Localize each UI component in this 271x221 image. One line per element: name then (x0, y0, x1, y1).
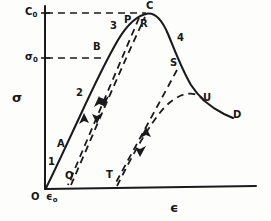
axis-group (41, 6, 256, 189)
y-tick-label-c0: C0 (25, 7, 38, 17)
point-U: U (203, 93, 211, 103)
segment-2: 2 (76, 88, 83, 98)
stress-strain-figure: σ ϵ O C0 σ0 ϵo C P R 3 B 4 S U D 2 A 1 Q… (0, 0, 271, 221)
point-S: S (170, 58, 177, 68)
y-tick-label-sigma0: σ0 (25, 52, 38, 62)
x-axis-line (45, 186, 256, 189)
y-tick-c0-base: C (25, 6, 33, 17)
point-B: B (93, 42, 101, 52)
x-tick-epsilon0-subscript: o (53, 196, 58, 204)
point-R: R (140, 19, 148, 29)
point-T: T (106, 170, 113, 180)
point-C: C (146, 1, 154, 11)
x-tick-epsilon0-base: ϵ (46, 191, 53, 202)
hysteresis-loop-2 (114, 70, 204, 186)
point-Q: Q (65, 171, 74, 181)
point-A: A (57, 139, 65, 149)
x-axis-label: ϵ (170, 201, 179, 214)
point-P: P (124, 15, 132, 25)
origin-label: O (31, 192, 40, 202)
point-D: D (233, 110, 242, 120)
y-tick-c0-subscript: 0 (33, 11, 38, 19)
y-axis-label: σ (12, 91, 22, 104)
x-tick-label-epsilon0: ϵo (46, 192, 58, 202)
reload-line-Q-to-R (71, 17, 145, 185)
segment-3: 3 (110, 21, 117, 31)
y-tick-sigma0-subscript: 0 (33, 56, 38, 64)
segment-4: 4 (177, 33, 184, 43)
y-tick-sigma0-base: σ (25, 51, 33, 62)
plot-canvas (0, 0, 271, 221)
segment-1: 1 (48, 157, 55, 167)
reload-curve-T-to-U (117, 94, 204, 186)
direction-arrows (79, 96, 151, 157)
